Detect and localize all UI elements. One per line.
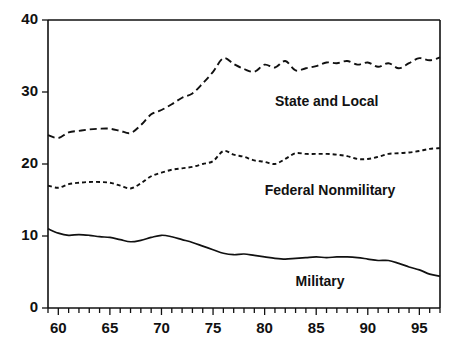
series-annotation-military: Military	[296, 273, 345, 289]
axis-ticks	[42, 20, 440, 315]
x-tick-label-60: 60	[50, 319, 67, 336]
y-tick-label-40: 40	[21, 10, 38, 27]
chart-container: 010203040 6065707580859095 State and Loc…	[0, 0, 462, 352]
x-tick-label-95: 95	[411, 319, 428, 336]
x-tick-label-85: 85	[308, 319, 325, 336]
y-tick-label-10: 10	[21, 226, 38, 243]
x-tick-label-80: 80	[256, 319, 273, 336]
data-series-group	[48, 57, 440, 276]
x-axis-tick-labels: 6065707580859095	[50, 319, 428, 336]
series-annotation-federal-nonmilitary: Federal Nonmilitary	[265, 182, 396, 198]
y-tick-label-0: 0	[30, 298, 38, 315]
x-tick-label-75: 75	[205, 319, 222, 336]
y-tick-label-20: 20	[21, 154, 38, 171]
y-axis-tick-labels: 010203040	[21, 10, 38, 315]
x-tick-label-65: 65	[102, 319, 119, 336]
line-chart: 010203040 6065707580859095 State and Loc…	[0, 0, 462, 352]
chart-axes	[48, 20, 440, 308]
x-tick-label-90: 90	[359, 319, 376, 336]
series-line-military	[48, 229, 440, 277]
series-annotation-state-and-local: State and Local	[275, 93, 378, 109]
x-tick-label-70: 70	[153, 319, 170, 336]
series-line-state-and-local	[48, 57, 440, 138]
y-tick-label-30: 30	[21, 82, 38, 99]
